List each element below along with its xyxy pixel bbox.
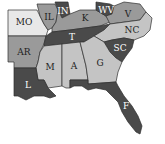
- label-m: M: [45, 62, 54, 72]
- label-t: T: [69, 32, 75, 42]
- label-wv: WV: [98, 5, 114, 15]
- label-a: A: [70, 61, 78, 71]
- label-v: V: [124, 9, 132, 19]
- label-nc: NC: [125, 25, 140, 35]
- label-k: K: [82, 13, 89, 23]
- label-f: F: [123, 101, 129, 111]
- label-il: IL: [44, 12, 54, 22]
- label-l: L: [25, 80, 31, 90]
- label-sc: SC: [113, 43, 126, 53]
- label-g: G: [96, 58, 103, 68]
- label-in: IN: [57, 6, 69, 16]
- state-florida[interactable]: [70, 80, 142, 134]
- label-mo: MO: [16, 17, 33, 27]
- label-ar: AR: [16, 47, 30, 57]
- southeast-us-map: MO IL IN K WV V AR T NC SC M A G L F: [0, 0, 165, 144]
